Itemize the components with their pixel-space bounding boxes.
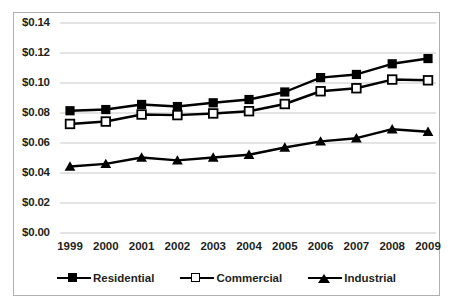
y-axis-tick-7: $0.14: [22, 16, 50, 28]
data-point: [173, 111, 182, 120]
data-point: [316, 73, 325, 82]
data-point: [352, 70, 361, 79]
legend-label-industrial: Industrial: [344, 272, 396, 284]
data-point: [424, 76, 433, 85]
data-point: [101, 105, 110, 114]
legend-item-industrial[interactable]: Industrial: [308, 271, 396, 285]
data-point: [137, 110, 146, 119]
gridlines: [60, 23, 436, 233]
y-axis-tick-0: $0.00: [22, 226, 50, 238]
legend-item-commercial[interactable]: Commercial: [180, 271, 282, 285]
data-point: [244, 95, 253, 104]
filled-triangle-icon: [308, 271, 342, 285]
line-chart-plot: [0, 0, 454, 308]
data-point: [209, 109, 218, 118]
series-layer: [65, 54, 434, 171]
x-axis-tick-2009: 2009: [406, 240, 450, 252]
data-point: [316, 87, 325, 96]
series-line-industrial: [70, 129, 428, 166]
data-point: [102, 117, 111, 126]
data-point: [388, 59, 397, 68]
y-axis-tick-1: $0.02: [22, 196, 50, 208]
data-point: [423, 54, 432, 63]
data-point: [352, 84, 361, 93]
legend-label-commercial: Commercial: [216, 272, 282, 284]
data-point: [281, 100, 290, 109]
y-axis-tick-6: $0.12: [22, 46, 50, 58]
data-point: [388, 75, 397, 84]
y-axis-tick-3: $0.06: [22, 136, 50, 148]
data-point: [173, 102, 182, 111]
data-point: [66, 120, 75, 129]
data-point: [137, 100, 146, 109]
data-point: [209, 98, 218, 107]
y-axis-tick-4: $0.08: [22, 106, 50, 118]
data-point: [245, 107, 254, 116]
chart-legend: Residential Commercial Industrial: [13, 266, 440, 290]
y-axis-tick-2: $0.04: [22, 166, 50, 178]
legend-label-residential: Residential: [93, 272, 154, 284]
data-point: [280, 87, 289, 96]
data-point: [65, 106, 74, 115]
y-axis-tick-5: $0.10: [22, 76, 50, 88]
filled-square-icon: [57, 271, 91, 285]
legend-item-residential[interactable]: Residential: [57, 271, 154, 285]
open-square-icon: [180, 271, 214, 285]
